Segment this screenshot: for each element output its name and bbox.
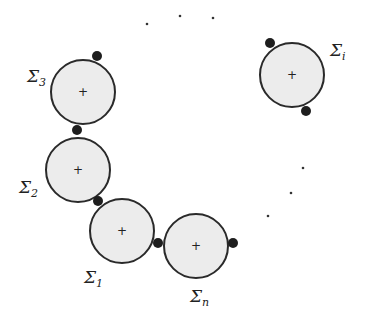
circle-sigma-n: + xyxy=(164,214,228,278)
center-mark: + xyxy=(191,239,201,253)
ellipsis-dot xyxy=(146,23,149,26)
center-mark: + xyxy=(287,68,297,82)
circle-sigma-2: + xyxy=(46,138,110,202)
contact-point xyxy=(153,238,163,248)
contact-point xyxy=(301,106,311,116)
center-mark: + xyxy=(117,224,127,238)
ellipsis-dot xyxy=(267,215,270,218)
contact-point xyxy=(93,196,103,206)
ellipsis-dot xyxy=(179,15,182,18)
label-sigma-2: Σ2 xyxy=(18,177,38,200)
contact-point xyxy=(72,125,82,135)
center-mark: + xyxy=(78,85,88,99)
circle-sigma-3: + xyxy=(51,60,115,124)
label-sigma-3: Σ3 xyxy=(26,66,46,89)
ellipsis-dot xyxy=(290,192,293,195)
label-sigma-i: Σi xyxy=(329,40,346,63)
contact-point xyxy=(265,38,275,48)
label-sigma-1: Σ1 xyxy=(83,267,103,290)
circle-sigma-1: + xyxy=(90,199,154,263)
contact-point xyxy=(92,51,102,61)
ellipsis-dot xyxy=(302,167,305,170)
circle-sigma-i: + xyxy=(260,43,324,107)
center-mark: + xyxy=(73,163,83,177)
contact-point xyxy=(228,238,238,248)
label-sigma-n: Σn xyxy=(189,286,209,309)
domain-chain-diagram: + + + + + Σ3 Σ2 Σ1 Σn Σi xyxy=(0,0,370,316)
ellipsis-dot xyxy=(212,17,215,20)
